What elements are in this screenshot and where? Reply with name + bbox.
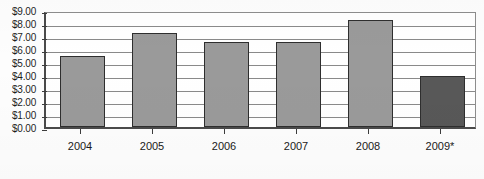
x-axis-tick-label: 2005 bbox=[140, 140, 164, 153]
x-axis-tick bbox=[296, 129, 297, 134]
y-axis-tick-label: $0.00 bbox=[0, 124, 36, 134]
bar-series bbox=[46, 13, 475, 127]
plot-area bbox=[44, 12, 476, 129]
bar-chart: $9.00 $8.00 $7.00 $6.00 $5.00 $4.00 $3.0… bbox=[0, 0, 484, 179]
x-axis-tick bbox=[440, 129, 441, 134]
y-axis-tick-label: $2.00 bbox=[0, 98, 36, 108]
bar-2007 bbox=[276, 42, 321, 127]
y-axis-tick-label: $7.00 bbox=[0, 33, 36, 43]
x-axis-tick-label: 2006 bbox=[212, 140, 236, 153]
x-axis-tick bbox=[80, 129, 81, 134]
y-axis-tick-label: $8.00 bbox=[0, 20, 36, 30]
x-axis-tick-labels: 200420052006200720082009* bbox=[44, 140, 476, 160]
bar-2009-projected bbox=[420, 76, 465, 127]
x-axis-tick bbox=[152, 129, 153, 134]
y-axis-tick-label: $3.00 bbox=[0, 85, 36, 95]
y-axis-tick-label: $1.00 bbox=[0, 111, 36, 121]
x-axis-tick bbox=[368, 129, 369, 134]
bar-2005 bbox=[132, 33, 177, 127]
bar-2008 bbox=[348, 20, 393, 127]
x-axis-tick bbox=[224, 129, 225, 134]
x-axis-tick-label: 2009* bbox=[426, 140, 455, 153]
x-axis-tick-label: 2004 bbox=[68, 140, 92, 153]
y-axis-tick-labels: $9.00 $8.00 $7.00 $6.00 $5.00 $4.00 $3.0… bbox=[0, 0, 38, 179]
y-axis-tick-label: $9.00 bbox=[0, 7, 36, 17]
bar-2006 bbox=[204, 42, 249, 127]
y-axis-tick-label: $6.00 bbox=[0, 46, 36, 56]
y-axis-tick-label: $5.00 bbox=[0, 59, 36, 69]
x-axis-tick-label: 2007 bbox=[284, 140, 308, 153]
x-axis-tick-label: 2008 bbox=[356, 140, 380, 153]
bar-2004 bbox=[60, 56, 105, 127]
x-axis-ticks bbox=[44, 129, 476, 135]
y-axis-tick-label: $4.00 bbox=[0, 72, 36, 82]
